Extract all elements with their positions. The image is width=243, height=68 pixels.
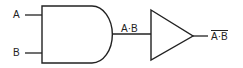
not-gate xyxy=(151,10,193,60)
and-gate xyxy=(42,6,112,63)
logic-diagram xyxy=(0,0,243,68)
input-label-a: A xyxy=(13,10,20,20)
and-output-label: A·B xyxy=(121,24,138,34)
not-output-label: A·B xyxy=(211,30,228,42)
input-label-b: B xyxy=(13,48,20,58)
